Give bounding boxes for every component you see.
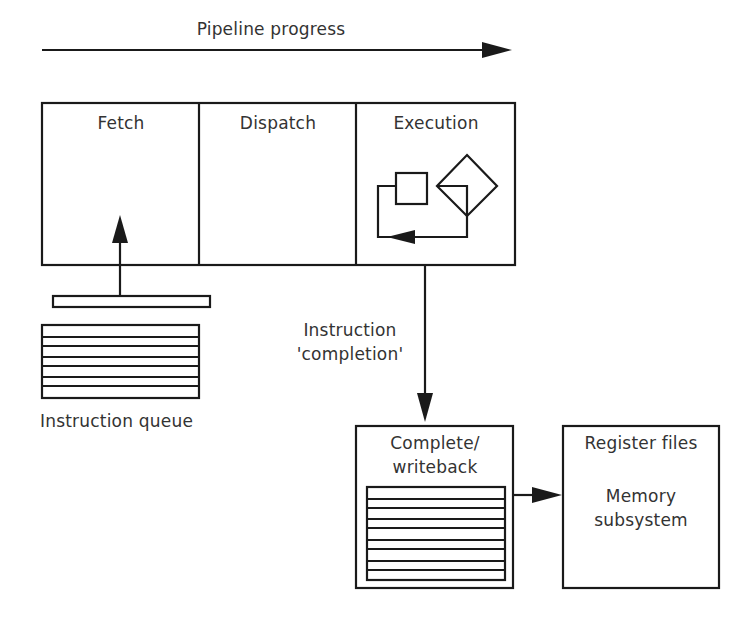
instruction-queue-label: Instruction queue bbox=[40, 411, 193, 431]
register-files-label: Register files bbox=[585, 433, 698, 453]
pipeline-progress-arrow bbox=[42, 42, 512, 58]
memory-subsystem-label-line1: Memory bbox=[606, 486, 676, 506]
instruction-queue-box bbox=[42, 325, 199, 398]
stage-label-fetch: Fetch bbox=[97, 113, 144, 133]
complete-writeback-label-line1: Complete/ bbox=[390, 433, 479, 453]
memory-subsystem-label-line2: subsystem bbox=[594, 510, 688, 530]
pipeline-diagram bbox=[0, 0, 753, 624]
execution-unit-icon bbox=[378, 155, 497, 244]
completion-label-line2: 'completion' bbox=[297, 344, 404, 364]
fetch-buffer-bar bbox=[53, 296, 210, 307]
fetch-input-arrow bbox=[112, 215, 128, 296]
writeback-arrow bbox=[513, 487, 562, 503]
completion-label-line1: Instruction bbox=[303, 320, 396, 340]
complete-writeback-label-line2: writeback bbox=[393, 457, 478, 477]
stage-label-dispatch: Dispatch bbox=[240, 113, 316, 133]
pipeline-progress-label: Pipeline progress bbox=[197, 19, 346, 39]
completion-arrow bbox=[417, 265, 433, 422]
stage-label-execution: Execution bbox=[393, 113, 478, 133]
